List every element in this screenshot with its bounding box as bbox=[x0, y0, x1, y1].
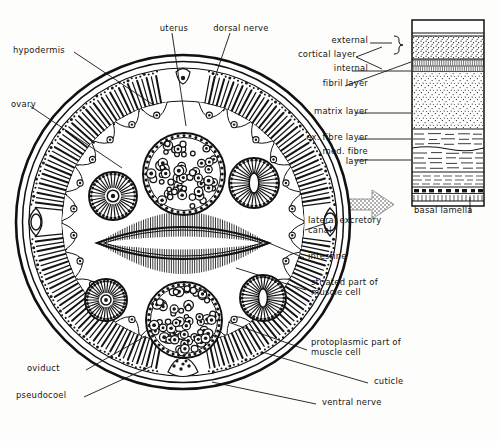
label-hypodermis: hypodermis bbox=[13, 46, 65, 56]
label-oviduct: oviduct bbox=[27, 364, 60, 374]
label-protoplasmic-muscle: protoplasmic part of muscle cell bbox=[311, 338, 401, 357]
label-ovary: ovary bbox=[11, 100, 36, 110]
cuticle-detail-panel bbox=[412, 20, 484, 206]
label-cortical-layer: cortical layer bbox=[284, 50, 356, 60]
label-pseudocoel: pseudocoel bbox=[16, 391, 66, 401]
cortical-bracket bbox=[394, 36, 403, 54]
label-uterus: uterus bbox=[146, 24, 202, 34]
label-matrix-layer: matrix layer bbox=[278, 107, 368, 117]
label-fibril-layer: fibril layer bbox=[282, 79, 368, 89]
label-lateral-canal: lateral excretory canal bbox=[308, 216, 381, 235]
label-external: external bbox=[312, 36, 368, 46]
diagram-svg bbox=[0, 0, 499, 441]
figure-canvas: hypodermis ovary uterus dorsal nerve ovi… bbox=[0, 0, 499, 441]
label-ex-fibre-layer: ex. fibre layer bbox=[268, 133, 368, 143]
label-internal: internal bbox=[308, 64, 368, 74]
label-cuticle: cuticle bbox=[374, 377, 403, 387]
label-basal-lamella: basal lamella bbox=[414, 206, 473, 216]
label-ventral-nerve: ventral nerve bbox=[322, 398, 382, 408]
label-intestine: intestine bbox=[308, 252, 347, 262]
label-dorsal-nerve: dorsal nerve bbox=[204, 24, 278, 34]
label-med-fibre-layer: med. fibre layer bbox=[282, 147, 368, 166]
label-striated-muscle: striated part of muscle cell bbox=[311, 278, 378, 297]
dark-block-row bbox=[414, 189, 483, 192]
